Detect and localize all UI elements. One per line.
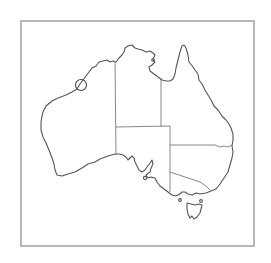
border-nt-sa — [116, 126, 170, 127]
groote-eylandt — [152, 59, 155, 62]
border-nsw-vic — [170, 172, 210, 190]
australia-map — [0, 0, 271, 263]
border-qld-nsw — [170, 145, 232, 147]
king-island — [179, 199, 182, 202]
location-marker-circle — [76, 80, 87, 91]
flinders-island — [200, 200, 203, 203]
kangaroo-island — [143, 176, 146, 179]
tasmania-coastline — [187, 203, 202, 219]
mainland-coastline — [41, 45, 233, 196]
border-wa-nt-sa — [115, 62, 116, 155]
